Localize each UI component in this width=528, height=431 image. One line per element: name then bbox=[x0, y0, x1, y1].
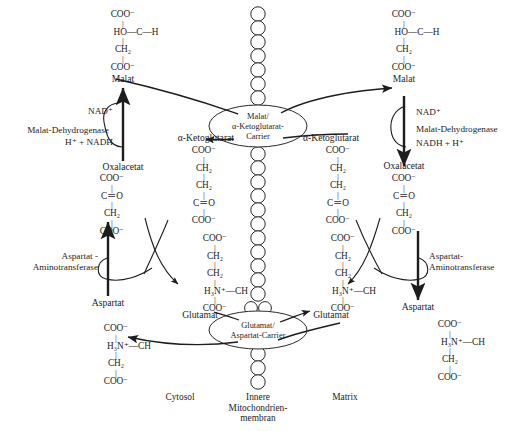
label-oxalacetat-cytosol: Oxalacetat bbox=[102, 161, 143, 172]
arrow-malat-to-matrix-exit bbox=[281, 88, 392, 113]
label-ketoglutarat-matrix: α-Ketoglutarat bbox=[303, 132, 359, 143]
label-aspartat-aminotransferase-right-line2: Aminotransferase bbox=[429, 262, 494, 273]
label-glutamat-cytosol: Glutamat bbox=[182, 309, 218, 320]
structure-row: COO⁻ bbox=[392, 227, 417, 238]
curve-left-aminotransfer-link bbox=[145, 218, 178, 284]
label-aspartat-aminotransferase-right-line1: Aspartat- bbox=[429, 251, 463, 262]
label-nadh-right: NADH + H⁺ bbox=[416, 138, 464, 149]
structure-malat-matrix: COO⁻ | HO—C—H | CH₂ | COO⁻ bbox=[369, 10, 440, 73]
curve-ast-right-loop bbox=[374, 258, 428, 280]
structure-oxalacetat-matrix: COO⁻ | C＝O | CH₂ | COO⁻ bbox=[392, 174, 417, 237]
label-nad-left: NAD⁺ bbox=[88, 106, 113, 117]
malate-aspartate-shuttle-diagram: COO⁻ | HO—C—H | CH₂ | COO⁻ Malat NAD⁺ Ma… bbox=[0, 0, 528, 431]
structure-glutamat-matrix: COO⁻ | CH₂ | CH₂ | H₃N⁺—CH | COO⁻ bbox=[310, 234, 376, 315]
carrier-line-2: α-Ketoglutarat- bbox=[232, 122, 284, 131]
label-aspartat-cytosol: Aspartat bbox=[92, 297, 125, 308]
compartment-label-membrane: Innere Mitochondrien- membran bbox=[203, 392, 313, 424]
label-nadh-left: H⁺ + NADH bbox=[65, 137, 113, 148]
structure-malat-cytosol: COO⁻ | HO—C—H | CH₂ | COO⁻ bbox=[88, 10, 159, 73]
label-aspartat-aminotransferase-left-line2: Aminotransferase bbox=[33, 262, 98, 273]
label-aspartat-matrix: Aspartat bbox=[402, 301, 435, 312]
carrier-line-2: Aspartat-Carrier bbox=[231, 331, 286, 340]
carrier-malat-ketoglutarat-label[interactable]: Malat/ α-Ketoglutarat- Carrier bbox=[210, 112, 306, 141]
label-malat-dehydrogenase-left: Malat-Dehydrogenase bbox=[27, 125, 109, 136]
structure-row: COO⁻ bbox=[192, 216, 217, 227]
structure-glutamat-cytosol: COO⁻ | CH₂ | CH₂ | H₃N⁺—CH | COO⁻ bbox=[182, 234, 248, 315]
structure-aspartat-cytosol: COO⁻ | H₃N⁺—CH | CH₂ | COO⁻ bbox=[81, 324, 151, 387]
carrier-line-1: Glutamat/ bbox=[241, 321, 275, 330]
label-malat-matrix: Malat bbox=[393, 73, 415, 84]
label-malat-dehydrogenase-right: Malat-Dehydrogenase bbox=[416, 124, 498, 135]
compartment-label-matrix: Matrix bbox=[332, 392, 358, 403]
membrane-line-3: membran bbox=[240, 413, 275, 423]
structure-row: COO⁻ bbox=[369, 63, 440, 74]
structure-ketoglutarat-matrix: COO⁻ | CH₂ | CH₂ | C＝O | COO⁻ bbox=[326, 146, 351, 227]
arrow-malat-cytosol-to-matrix bbox=[116, 79, 238, 114]
structure-oxalacetat-cytosol: COO⁻ | C＝O | CH₂ | COO⁻ bbox=[100, 174, 125, 237]
structure-row: COO⁻ bbox=[415, 373, 485, 384]
structure-row: COO⁻ bbox=[100, 227, 125, 238]
label-malat-cytosol: Malat bbox=[112, 73, 134, 84]
carrier-line-1: Malat/ bbox=[247, 112, 269, 121]
structure-row: COO⁻ bbox=[326, 216, 351, 227]
structure-row: COO⁻ bbox=[81, 377, 151, 388]
carrier-glutamat-aspartat-label[interactable]: Glutamat/ Aspartat-Carrier bbox=[210, 321, 306, 341]
structure-row: COO⁻ bbox=[88, 63, 159, 74]
label-aspartat-aminotransferase-left-line1: Aspartat - bbox=[62, 251, 98, 262]
compartment-label-cytosol: Cytosol bbox=[165, 392, 194, 403]
membrane-line-2: Mitochondrien- bbox=[229, 403, 288, 413]
label-oxalacetat-matrix: Oxalacetat bbox=[383, 160, 424, 171]
label-glutamat-matrix: Glutamat bbox=[313, 309, 349, 320]
structure-ketoglutarat-cytosol: COO⁻ | CH₂ | CH₂ | C＝O | COO⁻ bbox=[192, 146, 217, 227]
curve-ast-left-loop bbox=[98, 258, 152, 280]
label-nad-right: NAD⁺ bbox=[416, 107, 441, 118]
carrier-line-3: Carrier bbox=[246, 132, 270, 141]
membrane-line-1: Innere bbox=[246, 392, 270, 402]
structure-aspartat-matrix: COO⁻ | H₃N⁺—CH | CH₂ | COO⁻ bbox=[415, 320, 485, 383]
